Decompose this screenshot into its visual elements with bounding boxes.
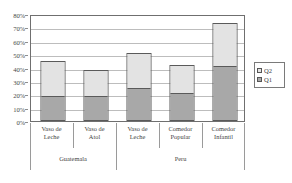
- bar-segment-q2: [127, 54, 150, 88]
- legend-swatch-icon: [257, 77, 262, 82]
- y-tick-label: 0%: [16, 119, 25, 126]
- category-label: Vaso de Atol: [73, 123, 116, 148]
- category-label-line1: Vaso de: [116, 125, 159, 133]
- category-label-line1: Comedor: [202, 125, 245, 133]
- category-label-line1: Comedor: [159, 125, 202, 133]
- y-tick-label: 10%: [13, 105, 25, 112]
- stacked-bar[interactable]: [83, 70, 108, 121]
- bar-segment-q1: [127, 88, 150, 120]
- legend-label: Q1: [264, 76, 272, 83]
- category-label-line2: Atol: [73, 133, 116, 141]
- y-tick-label: 50%: [13, 52, 25, 59]
- x-axis-group-labels: Guatemala Peru: [30, 148, 245, 170]
- bar-segment-q1: [41, 96, 64, 120]
- group-label: Peru: [116, 148, 245, 170]
- bar-segment-q1: [170, 93, 193, 120]
- stacked-bar-chart: 80% 70% 60% 50% 40% 30% 20% 10% 0%: [0, 0, 292, 183]
- y-tick-mark: [25, 109, 28, 110]
- stacked-bar[interactable]: [40, 61, 65, 121]
- y-tick-label: 40%: [13, 65, 25, 72]
- category-label-line1: Vaso de: [73, 125, 116, 133]
- stacked-bar[interactable]: [212, 23, 237, 121]
- stacked-bar[interactable]: [126, 53, 151, 121]
- bar-segment-q1: [84, 96, 107, 120]
- category-label: Comedor Popular: [159, 123, 202, 148]
- bar-segment-q2: [84, 71, 107, 96]
- y-tick-label: 80%: [13, 12, 25, 19]
- stacked-bar[interactable]: [169, 65, 194, 121]
- bar-slot: [31, 16, 74, 121]
- bar-slot: [160, 16, 203, 121]
- bar-segment-q2: [41, 62, 64, 96]
- category-label-line1: Vaso de: [30, 125, 73, 133]
- category-label: Vaso de Leche: [30, 123, 73, 148]
- chart-legend: Q2 Q1: [254, 62, 285, 88]
- category-label-line2: Leche: [30, 133, 73, 141]
- y-tick-mark: [25, 122, 28, 123]
- x-axis-category-labels: Vaso de Leche Vaso de Atol Vaso de Leche…: [30, 123, 245, 148]
- y-tick-mark: [25, 69, 28, 70]
- y-tick-mark: [25, 28, 28, 29]
- bar-segment-q2: [170, 66, 193, 94]
- y-tick-label: 20%: [13, 92, 25, 99]
- y-tick-label: 30%: [13, 78, 25, 85]
- legend-swatch-icon: [257, 68, 262, 73]
- group-label: Guatemala: [30, 148, 116, 170]
- bar-segment-q2: [213, 24, 236, 66]
- y-tick-mark: [25, 55, 28, 56]
- y-tick-label: 70%: [13, 25, 25, 32]
- y-tick-mark: [25, 15, 28, 16]
- category-label-line2: Leche: [116, 133, 159, 141]
- y-tick-mark: [25, 82, 28, 83]
- plot-area: [30, 15, 245, 122]
- y-tick-mark: [25, 95, 28, 96]
- bar-slot: [117, 16, 160, 121]
- y-tick-mark: [25, 42, 28, 43]
- category-label-line2: Popular: [159, 133, 202, 141]
- category-label: Vaso de Leche: [116, 123, 159, 148]
- bar-slot: [74, 16, 117, 121]
- category-label-line2: Infantil: [202, 133, 245, 141]
- legend-item[interactable]: Q1: [257, 75, 282, 84]
- legend-item[interactable]: Q2: [257, 66, 282, 75]
- bar-segment-q1: [213, 66, 236, 120]
- y-axis: 80% 70% 60% 50% 40% 30% 20% 10% 0%: [0, 10, 28, 124]
- y-tick-label: 60%: [13, 38, 25, 45]
- category-label: Comedor Infantil: [202, 123, 245, 148]
- bar-slot: [203, 16, 246, 121]
- bars-layer: [31, 16, 244, 121]
- legend-label: Q2: [264, 67, 272, 74]
